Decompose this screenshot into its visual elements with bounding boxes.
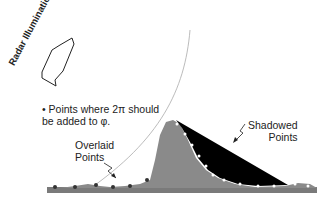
shadowed-points-label: Shadowed Points xyxy=(248,119,298,143)
shadowed-leader-icon xyxy=(236,124,245,140)
note-line-1: • Points where 2π should xyxy=(42,103,162,115)
note-text: • Points where 2π should be added to φ. xyxy=(42,103,162,127)
shadowed-line-1: Shadowed xyxy=(248,119,298,131)
note-line-2: be added to φ. xyxy=(42,115,162,127)
shadowed-line-2: Points xyxy=(248,131,298,143)
overlaid-line-1: Overlaid xyxy=(75,139,114,151)
overlaid-points-label: Overlaid Points xyxy=(75,139,114,163)
radar-illumination-arrow-icon xyxy=(42,38,74,86)
shadowed-arrowhead-icon xyxy=(233,137,238,143)
overlaid-line-2: Points xyxy=(75,151,114,163)
